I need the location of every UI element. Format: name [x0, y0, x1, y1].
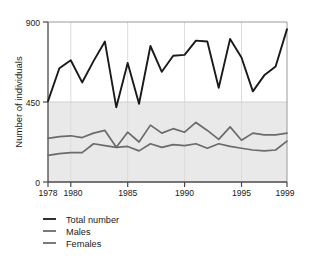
y-axis-ticks — [43, 22, 48, 182]
legend-label-females: Females — [66, 239, 102, 249]
x-tick-label-1990: 1990 — [175, 188, 194, 198]
y-tick-label-0: 0 — [35, 178, 40, 188]
legend-label-males: Males — [66, 227, 91, 237]
x-tick-label-1995: 1995 — [232, 188, 251, 198]
x-tick-label-1999: 1999 — [275, 188, 294, 198]
line-chart: 900 450 0 1978 1980 1985 1990 1995 1999 … — [0, 0, 312, 264]
y-axis-title: Number of individuals — [13, 56, 24, 148]
y-tick-label-450: 450 — [26, 98, 41, 108]
legend: Total number Males Females — [43, 215, 119, 249]
y-tick-label-900: 900 — [26, 18, 41, 28]
x-tick-label-1980: 1980 — [63, 188, 82, 198]
x-tick-label-1978: 1978 — [38, 188, 57, 198]
x-tick-label-1985: 1985 — [118, 188, 137, 198]
x-axis-ticks — [48, 182, 287, 187]
plot-background-lower — [48, 102, 287, 182]
plot-background-upper — [48, 22, 287, 102]
legend-label-total-number: Total number — [66, 215, 119, 225]
chart-figure: 900 450 0 1978 1980 1985 1990 1995 1999 … — [0, 0, 312, 264]
